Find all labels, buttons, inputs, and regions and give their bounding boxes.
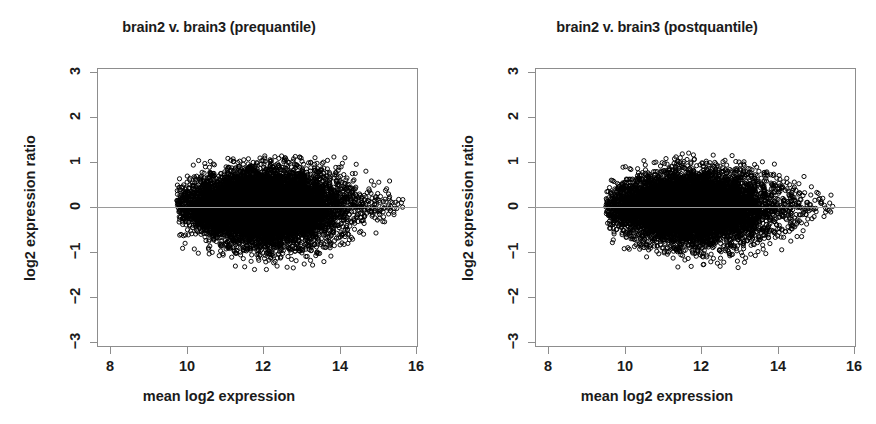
y-tick: [528, 162, 535, 163]
y-tick-label: −1: [505, 241, 521, 261]
x-tick-label: 10: [179, 358, 195, 374]
y-tick: [528, 342, 535, 343]
y-tick: [90, 207, 97, 208]
x-tick: [340, 347, 341, 354]
y-tick: [528, 207, 535, 208]
y-tick: [528, 72, 535, 73]
y-tick: [90, 162, 97, 163]
y-tick-label: 1: [505, 151, 521, 171]
y-tick-label: 2: [505, 106, 521, 126]
y-tick-label: 3: [505, 61, 521, 81]
x-tick-label: 12: [693, 358, 709, 374]
y-tick-label: −3: [505, 331, 521, 351]
x-tick: [416, 347, 417, 354]
x-tick-label: 14: [332, 358, 348, 374]
y-tick: [528, 252, 535, 253]
y-tick-label: 1: [67, 151, 83, 171]
x-tick: [187, 347, 188, 354]
x-tick-label: 14: [770, 358, 786, 374]
x-tick-label: 10: [617, 358, 633, 374]
x-tick-label: 16: [408, 358, 424, 374]
x-tick: [701, 347, 702, 354]
x-tick: [548, 347, 549, 354]
y-tick-label: −1: [67, 241, 83, 261]
x-tick-label: 16: [846, 358, 862, 374]
panel-title: brain2 v. brain3 (prequantile): [0, 19, 438, 35]
y-tick: [528, 297, 535, 298]
x-axis-title: mean log2 expression: [438, 388, 876, 404]
y-tick-label: −2: [505, 286, 521, 306]
x-axis-title: mean log2 expression: [0, 388, 438, 404]
panel-title: brain2 v. brain3 (postquantile): [438, 19, 876, 35]
y-tick-label: 0: [67, 196, 83, 216]
y-tick: [90, 297, 97, 298]
zero-reference-line: [535, 207, 856, 208]
x-tick: [110, 347, 111, 354]
y-tick: [90, 117, 97, 118]
x-tick-label: 12: [255, 358, 271, 374]
y-tick: [90, 342, 97, 343]
y-tick: [90, 72, 97, 73]
y-tick-label: −2: [67, 286, 83, 306]
zero-reference-line: [97, 207, 418, 208]
y-tick: [528, 117, 535, 118]
y-axis-title: log2 expression ratio: [460, 135, 476, 281]
y-tick-label: 2: [67, 106, 83, 126]
panel-prequantile: brain2 v. brain3 (prequantile) 810121416…: [0, 0, 438, 424]
panel-postquantile: brain2 v. brain3 (postquantile) 81012141…: [438, 0, 876, 424]
x-tick: [854, 347, 855, 354]
x-tick: [625, 347, 626, 354]
y-tick-label: −3: [67, 331, 83, 351]
figure-canvas: brain2 v. brain3 (prequantile) 810121416…: [0, 0, 876, 424]
x-tick-label: 8: [106, 358, 114, 374]
x-tick-label: 8: [544, 358, 552, 374]
y-axis-title: log2 expression ratio: [22, 135, 38, 281]
x-tick: [263, 347, 264, 354]
y-tick: [90, 252, 97, 253]
y-tick-label: 3: [67, 61, 83, 81]
y-tick-label: 0: [505, 196, 521, 216]
x-tick: [778, 347, 779, 354]
